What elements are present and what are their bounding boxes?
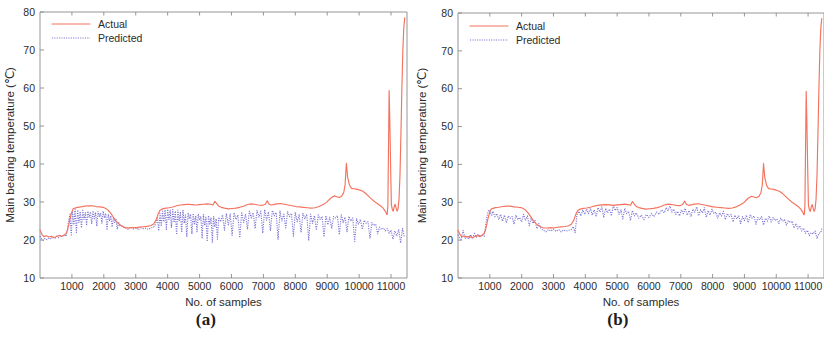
y-tick-label: 70 [23,44,35,56]
series-line-predicted [458,205,822,239]
x-tick-label: 5000 [605,280,629,292]
x-tick-label: 1000 [60,280,84,292]
y-tick-label: 30 [441,196,453,208]
axis-spines [40,12,407,278]
y-tick-label: 20 [23,234,35,246]
panel-caption-a: (a) [0,310,412,330]
chart-panel-b: 1020304050607080100020003000400050006000… [412,0,824,344]
series-line-predicted [40,209,404,243]
x-tick-label: 5000 [188,280,212,292]
panel-caption-b: (b) [412,310,824,330]
chart-svg-b: 1020304050607080100020003000400050006000… [412,0,824,344]
x-tick-label: 9000 [316,280,340,292]
y-tick-label: 10 [441,272,453,284]
x-tick-label: 4000 [156,280,180,292]
y-tick-label: 40 [23,158,35,170]
y-tick-label: 60 [23,82,35,94]
x-tick-label: 2000 [510,280,534,292]
legend-label-actual: Actual [516,20,545,32]
legend-label-predicted: Predicted [516,34,561,46]
y-axis-title: Main bearing temperature (℃) [4,67,16,223]
x-tick-label: 10000 [345,280,374,292]
x-tick-label: 8000 [284,280,308,292]
x-tick-label: 7000 [669,280,693,292]
x-tick-label: 4000 [574,280,598,292]
x-tick-label: 8000 [701,280,725,292]
y-axis-title: Main bearing temperature (℃) [416,68,428,224]
x-tick-label: 1000 [478,280,502,292]
axis-spines [458,13,824,278]
x-axis-title: No. of samples [185,296,262,308]
y-tick-label: 20 [441,234,453,246]
figure-container: 1020304050607080100020003000400050006000… [0,0,824,344]
y-tick-label: 80 [441,7,453,19]
y-tick-label: 70 [441,45,453,57]
x-tick-label: 3000 [542,280,566,292]
y-tick-label: 10 [23,272,35,284]
y-tick-label: 40 [441,158,453,170]
legend-label-predicted: Predicted [98,32,143,44]
y-tick-label: 60 [441,82,453,94]
x-tick-label: 6000 [220,280,244,292]
y-tick-label: 50 [441,120,453,132]
x-tick-label: 2000 [92,280,116,292]
x-tick-label: 10000 [762,280,791,292]
y-tick-label: 30 [23,196,35,208]
x-tick-label: 9000 [733,280,757,292]
x-tick-label: 6000 [637,280,661,292]
x-tick-label: 7000 [252,280,276,292]
y-tick-label: 80 [23,6,35,18]
series-line-actual [458,19,822,238]
x-tick-label: 11000 [794,280,823,292]
series-line-actual [40,18,405,238]
chart-panel-a: 1020304050607080100020003000400050006000… [0,0,412,344]
x-axis-title: No. of samples [603,296,680,308]
y-tick-label: 50 [23,120,35,132]
x-tick-label: 3000 [124,280,148,292]
x-tick-label: 11000 [377,280,406,292]
chart-svg-a: 1020304050607080100020003000400050006000… [0,0,412,344]
legend-label-actual: Actual [98,18,127,30]
